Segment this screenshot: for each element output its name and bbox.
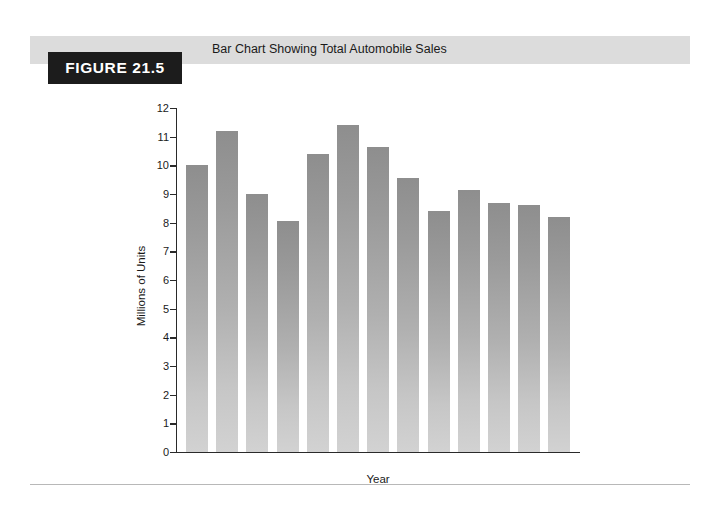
y-axis-tick-label: 0: [163, 446, 169, 458]
bar: [307, 154, 329, 452]
bar: [337, 125, 359, 452]
bar-chart-figure: 0123456789101112 2468101214161820222426 …: [0, 0, 715, 507]
y-axis-tick-mark: [170, 108, 176, 109]
y-axis-tick-mark: [170, 423, 176, 424]
y-axis-tick-label: 12: [157, 102, 169, 114]
y-axis-tick-mark: [170, 194, 176, 195]
y-axis-tick-mark: [170, 223, 176, 224]
y-axis-tick-label: 9: [163, 188, 169, 200]
bar: [458, 190, 480, 452]
y-axis-tick-mark: [170, 280, 176, 281]
y-axis-tick-label: 10: [157, 159, 169, 171]
y-axis-tick-mark: [170, 395, 176, 396]
bar: [428, 211, 450, 452]
bar: [518, 205, 540, 452]
y-axis-tick-label: 1: [163, 417, 169, 429]
y-axis-tick-label: 7: [163, 245, 169, 257]
page-bottom-rule: [30, 484, 690, 485]
bar: [186, 165, 208, 452]
y-axis-tick-mark: [170, 165, 176, 166]
bar: [246, 194, 268, 452]
y-axis-tick-mark: [170, 137, 176, 138]
plot-area: 0123456789101112 2468101214161820222426: [176, 108, 580, 452]
bar: [216, 131, 238, 452]
y-axis-tick-mark: [170, 309, 176, 310]
y-axis-tick-label: 4: [163, 331, 169, 343]
bar: [277, 221, 299, 452]
y-axis-tick-mark: [170, 337, 176, 338]
y-axis-tick-label: 2: [163, 389, 169, 401]
bar: [367, 147, 389, 452]
y-axis-tick-mark: [170, 251, 176, 252]
bar: [397, 178, 419, 452]
bar: [488, 203, 510, 452]
y-axis-tick-label: 8: [163, 217, 169, 229]
bar: [548, 217, 570, 452]
y-axis-tick-mark: [170, 366, 176, 367]
y-axis-tick-mark: [170, 452, 176, 453]
y-axis-title: Millions of Units: [135, 246, 147, 327]
y-axis-tick-label: 3: [163, 360, 169, 372]
y-axis-tick-label: 11: [158, 131, 169, 143]
y-axis-tick-label: 6: [163, 274, 169, 286]
y-axis-tick-label: 5: [163, 303, 169, 315]
